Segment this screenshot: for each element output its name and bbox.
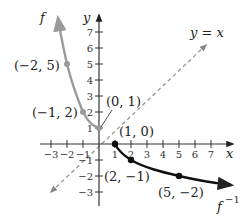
y-tick-label: 6: [87, 43, 93, 54]
label-point-minus2-5: (−2, 5): [14, 58, 60, 73]
label-point-5-minus2: (5, −2): [158, 185, 204, 200]
x-tick-label: 6: [192, 149, 198, 160]
y-axis: [95, 15, 103, 206]
point-finv-2-minus1: [128, 157, 134, 163]
y-tick-label: 3: [87, 91, 93, 102]
x-tick-label: 5: [176, 149, 182, 160]
y-tick-label: 2: [87, 107, 93, 118]
point-finv-5-minus2: [176, 173, 182, 179]
x-tick-label: 4: [160, 149, 166, 160]
label-f-inverse: f −1: [216, 194, 240, 214]
y-axis-label: y: [82, 10, 91, 25]
x-tick-label: 1: [112, 149, 118, 160]
leader-line-0-1: [101, 110, 112, 127]
label-point-2-minus1: (2, −1): [104, 169, 150, 184]
label-f: f: [39, 10, 47, 25]
y-tick-label: 4: [87, 75, 93, 86]
x-tick-label: 3: [144, 149, 150, 160]
point-f-minus2-5: [64, 61, 70, 67]
x-tick-label: −3: [44, 149, 59, 160]
y-tick-label: −3: [78, 187, 93, 198]
graph-figure: −3 −2 −1 1 2 3 4 5 6 7 7 6 5 4 3 2 1 −1 …: [0, 0, 252, 220]
svg-text:f: f: [216, 199, 224, 214]
y-tick-label: −2: [78, 171, 93, 182]
label-point-minus1-2: (−1, 2): [32, 105, 78, 120]
label-identity: y = x: [189, 25, 225, 40]
label-point-0-1: (0, 1): [106, 94, 141, 109]
y-tick-label: −1: [78, 155, 93, 166]
point-finv-1-0: [112, 141, 118, 147]
point-f-minus1-2: [80, 109, 86, 115]
x-tick-label: −2: [60, 149, 75, 160]
plot-canvas: −3 −2 −1 1 2 3 4 5 6 7 7 6 5 4 3 2 1 −1 …: [0, 0, 252, 220]
label-point-1-0: (1, 0): [119, 124, 154, 139]
y-tick-label: 7: [87, 27, 93, 38]
svg-text:−1: −1: [225, 194, 240, 205]
x-tick-label: 7: [208, 149, 214, 160]
point-f-0-1: [96, 125, 102, 131]
y-tick-label: 5: [87, 59, 93, 70]
x-axis: [40, 140, 233, 148]
x-axis-label: x: [226, 146, 234, 161]
